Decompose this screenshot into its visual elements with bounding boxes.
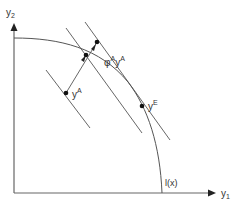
frontier-label: l(x) [165, 178, 178, 188]
y2-axis-label: y2 [6, 7, 15, 19]
isoline-outer [85, 22, 170, 140]
point-ya [64, 91, 69, 96]
point-scaled [95, 40, 100, 45]
ya-label: yA [72, 87, 82, 100]
axes [11, 23, 217, 197]
frontier-curve [14, 38, 162, 193]
point-frontier [84, 53, 89, 58]
production-frontier-diagram: y2 y1 yA φAyA yE l(x) [0, 0, 243, 207]
isoline-mid [66, 28, 142, 133]
y1-axis-label: y1 [221, 188, 230, 200]
ye-label: yE [148, 99, 158, 112]
isoline-a [46, 70, 90, 128]
y-axis-arrow-icon [11, 23, 18, 31]
point-ye [140, 104, 145, 109]
phi-ya-label: φAyA [104, 55, 125, 68]
x-axis-arrow-icon [208, 190, 216, 197]
